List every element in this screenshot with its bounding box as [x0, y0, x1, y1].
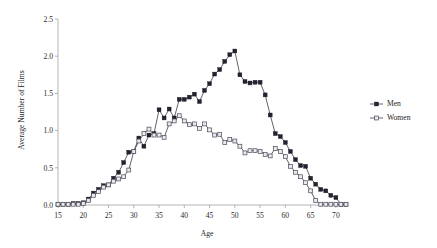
x-tick-label: 50	[231, 211, 239, 220]
data-point	[177, 97, 181, 101]
legend-label: Women	[387, 113, 411, 122]
line-chart: 0.00.51.01.52.02.5 152025303540455055606…	[0, 0, 437, 248]
data-point	[142, 144, 146, 148]
data-point	[182, 119, 186, 123]
data-point	[127, 168, 131, 172]
data-point	[117, 177, 121, 181]
x-tick-label: 70	[332, 211, 340, 220]
data-point	[334, 196, 338, 200]
data-point	[107, 183, 111, 187]
data-point	[309, 189, 313, 193]
y-axis-title: Average Number of Films	[17, 70, 26, 149]
data-point	[208, 128, 212, 132]
data-point	[157, 133, 161, 137]
data-point	[152, 133, 156, 137]
y-tick-label: 2.5	[44, 15, 54, 24]
legend-label: Men	[387, 99, 401, 108]
data-point	[177, 114, 181, 118]
data-point	[76, 202, 80, 206]
data-point	[122, 161, 126, 165]
data-point	[182, 97, 186, 101]
data-point	[253, 80, 257, 84]
data-point	[96, 190, 100, 194]
data-point	[223, 141, 227, 145]
data-point	[147, 133, 151, 137]
data-point	[102, 185, 106, 189]
data-point	[213, 133, 217, 137]
data-point	[203, 122, 207, 126]
data-point	[339, 202, 343, 206]
x-tick-label: 40	[181, 211, 189, 220]
data-point	[71, 202, 75, 206]
data-point	[117, 170, 121, 174]
x-tick-label: 60	[282, 211, 290, 220]
data-point	[283, 141, 287, 145]
x-tick-label: 20	[79, 211, 87, 220]
data-point	[66, 202, 70, 206]
data-point	[167, 122, 171, 126]
data-point	[162, 135, 166, 139]
data-point	[86, 199, 90, 203]
x-tick-label: 25	[105, 211, 113, 220]
data-point	[243, 151, 247, 155]
data-point	[167, 107, 171, 111]
data-point	[157, 108, 161, 112]
data-point	[329, 193, 333, 197]
data-point	[192, 122, 196, 126]
y-axis: 0.00.51.01.52.02.5	[44, 15, 59, 210]
chart-container: 0.00.51.01.52.02.5 152025303540455055606…	[0, 0, 437, 248]
data-point	[309, 176, 313, 180]
data-point	[314, 182, 318, 186]
data-point	[258, 149, 262, 153]
data-point	[112, 179, 116, 183]
data-point	[203, 88, 207, 92]
data-point	[233, 139, 237, 143]
data-point	[304, 181, 308, 185]
data-point	[122, 175, 126, 179]
data-point	[192, 92, 196, 96]
data-point	[91, 193, 95, 197]
data-point	[218, 68, 222, 72]
data-point	[273, 132, 277, 136]
data-point	[248, 149, 252, 153]
x-axis: 152025303540455055606570	[54, 205, 346, 220]
y-tick-label: 0.5	[44, 164, 54, 173]
data-point	[147, 127, 151, 131]
data-point	[288, 149, 292, 153]
chart-legend: MenWomen	[370, 99, 411, 122]
data-point	[263, 152, 267, 156]
data-point	[228, 138, 232, 142]
y-tick-label: 0.0	[44, 201, 54, 210]
data-point	[142, 132, 146, 136]
data-point	[213, 72, 217, 76]
data-point	[268, 113, 272, 117]
data-point	[198, 126, 202, 130]
data-point	[319, 202, 323, 206]
x-tick-label: 30	[130, 211, 138, 220]
data-point	[283, 155, 287, 159]
data-point	[273, 147, 277, 151]
data-point	[278, 149, 282, 153]
data-point	[238, 73, 242, 77]
data-point	[132, 149, 136, 153]
series-women	[56, 114, 348, 206]
data-point	[218, 132, 222, 136]
data-point	[56, 202, 60, 206]
data-point	[278, 135, 282, 139]
data-point	[233, 49, 237, 53]
data-point	[299, 164, 303, 168]
data-point	[314, 199, 318, 203]
data-point	[137, 139, 141, 143]
data-point	[344, 202, 348, 206]
data-point	[268, 154, 272, 158]
data-point	[61, 202, 65, 206]
data-point	[248, 81, 252, 85]
data-point	[127, 150, 131, 154]
data-point	[319, 187, 323, 191]
data-point	[81, 202, 85, 206]
x-axis-title: Age	[201, 229, 214, 238]
data-point	[172, 119, 176, 123]
data-point	[294, 158, 298, 162]
data-point	[243, 80, 247, 84]
legend-marker	[375, 102, 379, 106]
